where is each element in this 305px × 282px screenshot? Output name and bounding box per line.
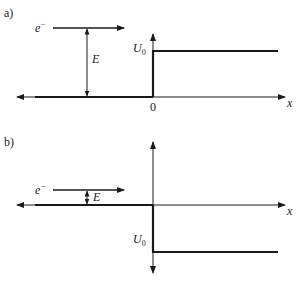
panel-a: a) e− E U0 0 x xyxy=(4,6,293,114)
x-axis-label: x xyxy=(286,96,293,110)
panel-a-label: a) xyxy=(4,6,13,20)
potential-label: U0 xyxy=(133,232,146,248)
electron-label: e− xyxy=(35,20,46,35)
potential-step-figure: a) e− E U0 0 x b) xyxy=(0,0,305,282)
electron-label: e− xyxy=(35,182,46,197)
energy-label: E xyxy=(92,190,101,204)
panel-b-label: b) xyxy=(4,135,14,149)
origin-label: 0 xyxy=(150,100,156,114)
energy-label: E xyxy=(91,52,100,66)
potential-label: U0 xyxy=(133,41,146,57)
x-axis-label: x xyxy=(286,204,293,218)
panel-b: b) e− E U0 x xyxy=(4,135,293,273)
